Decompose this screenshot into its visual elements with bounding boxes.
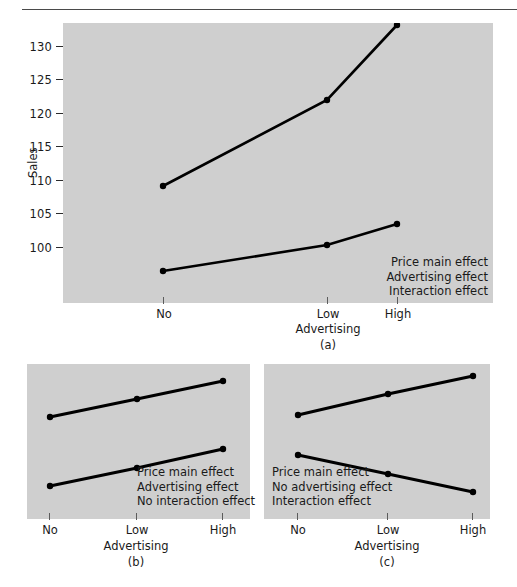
panel-a-ytick-label-115: 115 <box>14 140 52 154</box>
panel-a-point-low-price-low <box>324 97 330 103</box>
panel-a-point-high-price-low <box>324 242 330 248</box>
panel-a-ytick-label-130: 130 <box>14 40 52 54</box>
panel-b-annotation-1: Price main effect <box>137 465 257 480</box>
panel-a-ytick-dash-120 <box>56 113 63 114</box>
panel-a-ytick-label-100: 100 <box>14 241 52 255</box>
panel-c-xtick-label-high: High <box>443 523 503 537</box>
panel-a-xtick-label-low: Low <box>298 307 358 321</box>
panel-c-annotation-2: No advertising effect <box>272 480 412 495</box>
panel-a-annotations: Price main effect Advertising effect Int… <box>333 255 488 299</box>
panel-c-point-high-price-no <box>295 452 301 458</box>
panel-a-line-low-price <box>163 25 397 186</box>
panel-a-xtick-label-no: No <box>134 307 194 321</box>
panel-b-xtick-label-low: Low <box>107 523 167 537</box>
panel-b-annotation-2: Advertising effect <box>137 480 257 495</box>
panel-c-point-low-price-no <box>295 412 301 418</box>
panel-c-xtick-mark-high <box>472 513 473 520</box>
panel-a-annotation-2: Advertising effect <box>333 270 488 285</box>
panel-b-xtick-mark-no <box>49 513 50 520</box>
panel-c-point-low-price-high <box>470 373 476 379</box>
panel-a-point-high-price-high <box>394 221 400 227</box>
panel-a-annotation-1: Price main effect <box>333 255 488 270</box>
panel-c-annotations: Price main effect No advertising effect … <box>272 465 412 509</box>
panel-a-ytick-dash-100 <box>56 247 63 248</box>
panel-c-point-low-price-low <box>385 391 391 397</box>
panel-a-ytick-dash-130 <box>56 46 63 47</box>
panel-a-xtick-mark-low <box>327 297 328 304</box>
panel-a-point-low-price-no <box>160 183 166 189</box>
panel-b-point-low-price-no <box>47 414 53 420</box>
panel-c-point-high-price-high <box>470 489 476 495</box>
panel-a-ytick-dash-110 <box>56 180 63 181</box>
panel-a-xtick-mark-no <box>163 297 164 304</box>
panel-b-xtick-label-no: No <box>20 523 80 537</box>
panel-a-point-high-price-no <box>160 268 166 274</box>
panel-b-x-axis-title: Advertising <box>91 539 181 553</box>
panel-c-xtick-label-low: Low <box>358 523 418 537</box>
panel-a-ytick-label-125: 125 <box>14 73 52 87</box>
panel-a-x-axis-title: Advertising <box>283 322 373 336</box>
panel-b-annotations: Price main effect Advertising effect No … <box>137 465 257 509</box>
panel-b-point-high-price-high <box>220 446 226 452</box>
panel-c-annotation-3: Interaction effect <box>272 494 412 509</box>
panel-b: No Low High Advertising Price main effec… <box>0 355 255 587</box>
panel-a-caption: (a) <box>283 338 373 352</box>
panel-b-xtick-label-high: High <box>193 523 253 537</box>
panel-b-point-low-price-low <box>134 396 140 402</box>
panel-b-xtick-mark-low <box>136 513 137 520</box>
panel-a-ytick-dash-105 <box>56 213 63 214</box>
panel-b-caption: (b) <box>91 555 181 569</box>
panel-a-ytick-dash-125 <box>56 79 63 80</box>
panel-c-xtick-mark-low <box>387 513 388 520</box>
panel-a-annotation-3: Interaction effect <box>333 284 488 299</box>
panel-a-xtick-label-high: High <box>368 307 428 321</box>
panel-a-ytick-label-120: 120 <box>14 107 52 121</box>
panel-a-ytick-label-105: 105 <box>14 207 52 221</box>
panel-c-annotation-1: Price main effect <box>272 465 412 480</box>
panel-a-ytick-label-110: 110 <box>14 174 52 188</box>
panel-b-xtick-mark-high <box>222 513 223 520</box>
panel-b-point-low-price-high <box>220 378 226 384</box>
panel-b-annotation-3: No interaction effect <box>137 494 257 509</box>
panel-c: No Low High Advertising Price main effec… <box>260 355 517 587</box>
panel-c-x-axis-title: Advertising <box>342 539 432 553</box>
panel-c-xtick-mark-no <box>297 513 298 520</box>
panel-c-caption: (c) <box>342 555 432 569</box>
panel-a: Sales 130 125 120 115 110 105 100 No Low… <box>0 0 517 350</box>
panel-a-ytick-dash-115 <box>56 146 63 147</box>
panel-c-xtick-label-no: No <box>268 523 328 537</box>
panel-b-point-high-price-no <box>47 483 53 489</box>
